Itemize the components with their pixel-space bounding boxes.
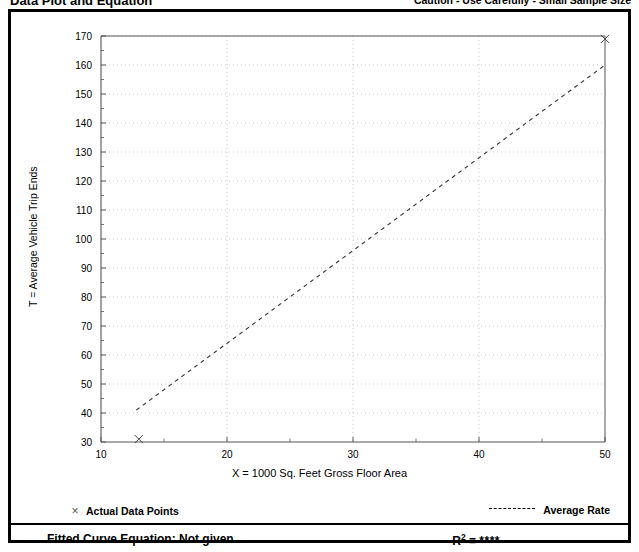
svg-text:140: 140 [75,118,92,129]
svg-text:50: 50 [599,449,611,460]
svg-text:30: 30 [81,437,93,448]
page-title: Data Plot and Equation [10,0,152,8]
svg-text:130: 130 [75,147,92,158]
header-band: Data Plot and Equation Caution - Use Car… [0,0,639,9]
legend-label-average-rate: Average Rate [543,504,610,516]
fitted-curve-equation: Fitted Curve Equation: Not given [47,532,234,546]
svg-text:70: 70 [81,321,93,332]
dashed-line-icon [489,508,535,510]
svg-text:60: 60 [81,350,93,361]
chart-panel: T = Average Vehicle Trip Ends X = 1000 S… [8,9,631,543]
r2-prefix: R [452,534,461,548]
svg-text:10: 10 [95,449,107,460]
plot-area: T = Average Vehicle Trip Ends X = 1000 S… [11,12,628,477]
svg-text:170: 170 [75,31,92,42]
r-squared-value: R2 = **** [452,532,500,548]
svg-text:30: 30 [347,449,359,460]
svg-text:50: 50 [81,379,93,390]
svg-text:80: 80 [81,292,93,303]
legend-item-actual-data-points: ×Actual Data Points [64,504,179,518]
scatter-plot-svg: 3040506070809010011012013014015016017010… [11,12,628,467]
r2-stars: **** [479,534,500,548]
legend-item-average-rate: Average Rate [489,504,610,516]
svg-text:160: 160 [75,60,92,71]
svg-text:120: 120 [75,176,92,187]
svg-text:20: 20 [221,449,233,460]
equation-row: Fitted Curve Equation: Not given R2 = **… [11,525,628,540]
cross-marker-icon: × [64,504,86,518]
svg-text:110: 110 [76,205,92,216]
svg-text:40: 40 [473,449,485,460]
svg-text:150: 150 [75,89,92,100]
chart-legend: ×Actual Data Points Average Rate [11,496,628,526]
x-axis-title: X = 1000 Sq. Feet Gross Floor Area [11,467,628,479]
r2-equals: = [466,534,480,548]
legend-label-actual-data-points: Actual Data Points [86,505,179,517]
svg-text:40: 40 [81,408,93,419]
svg-text:90: 90 [81,263,93,274]
caution-note: Caution - Use Carefully - Small Sample S… [414,0,631,6]
svg-text:100: 100 [75,234,92,245]
